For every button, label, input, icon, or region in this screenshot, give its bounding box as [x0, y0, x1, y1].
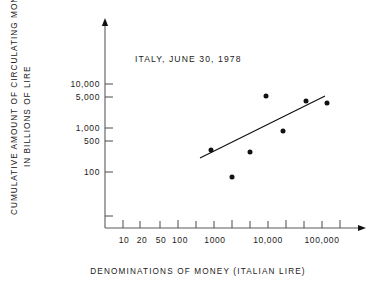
chart-figure: 10,000 5,000 1,000 500 100 10 20 50 100 … [0, 0, 376, 288]
y-axis-arrowhead [102, 18, 108, 26]
data-point [281, 129, 286, 134]
y-axis-title: CUMULATIVE AMOUNT OF CIRCULATING MONEY I… [10, 0, 32, 215]
chart-title: ITALY, JUNE 30, 1978 [135, 54, 242, 64]
data-point [209, 148, 214, 153]
y-axis-title-line1: CUMULATIVE AMOUNT OF CIRCULATING MONEY [10, 0, 19, 215]
x-axis-arrowhead [358, 225, 366, 231]
y-tick-label-1000: 1,000 [76, 123, 100, 133]
x-tick-label-50: 50 [156, 235, 167, 245]
x-axis-title: DENOMINATIONS OF MONEY (ITALIAN LIRE) [90, 267, 305, 276]
data-point-series [209, 94, 330, 180]
x-tick-label-10000: 10,000 [253, 235, 283, 245]
y-axis-tick-labels: 10,000 5,000 1,000 500 100 [70, 79, 100, 177]
y-tick-label-10000: 10,000 [70, 79, 100, 89]
data-point [248, 150, 253, 155]
x-axis-tick-labels: 10 20 50 100 1000 10,000 100,000 [119, 235, 340, 245]
scatter-plot-svg: 10,000 5,000 1,000 500 100 10 20 50 100 … [0, 0, 376, 288]
x-tick-label-100: 100 [172, 235, 188, 245]
data-point [264, 94, 269, 99]
y-axis-title-line2: IN BILLIONS OF LIRE [23, 66, 32, 167]
trend-line [200, 96, 325, 158]
x-tick-label-20: 20 [137, 235, 148, 245]
y-tick-label-5000: 5,000 [76, 92, 100, 102]
axis-lines [102, 18, 366, 231]
data-point [325, 101, 330, 106]
x-tick-label-10: 10 [119, 235, 130, 245]
y-tick-label-500: 500 [84, 136, 100, 146]
x-tick-label-1000: 1000 [204, 235, 225, 245]
x-tick-label-100000: 100,000 [305, 235, 340, 245]
y-axis-ticks [105, 84, 113, 216]
y-tick-label-100: 100 [84, 167, 100, 177]
data-point [230, 175, 235, 180]
data-point [304, 99, 309, 104]
x-axis-ticks [123, 220, 340, 228]
